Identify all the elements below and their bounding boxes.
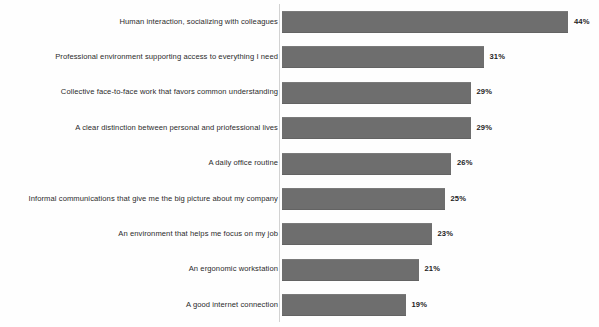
bar-value-label: 25% <box>451 194 467 203</box>
bar-value-label: 26% <box>457 158 473 167</box>
category-label: A good internet connection <box>186 300 278 309</box>
bar-value-label: 44% <box>574 17 590 26</box>
bar <box>282 259 419 281</box>
category-label: An environment that helps me focus on my… <box>118 229 278 238</box>
bar <box>282 11 568 33</box>
bar-row: Professional environment supporting acce… <box>0 46 599 66</box>
bar-row: An ergonomic workstation21% <box>0 259 599 279</box>
bar-value-label: 23% <box>438 229 454 238</box>
bar <box>282 294 406 316</box>
bar-chart: Human interaction, socializing with coll… <box>0 0 599 327</box>
bar-row: Collective face-to-face work that favors… <box>0 82 599 102</box>
bar-value-label: 31% <box>490 52 506 61</box>
category-label: Informal communications that give me the… <box>29 194 278 203</box>
bar-row: An environment that helps me focus on my… <box>0 223 599 243</box>
bar-row: Informal communications that give me the… <box>0 188 599 208</box>
category-label: Professional environment supporting acce… <box>55 52 278 61</box>
bar-value-label: 29% <box>477 123 493 132</box>
category-label: A daily office routine <box>208 158 278 167</box>
bar-value-label: 29% <box>477 87 493 96</box>
bar <box>282 82 471 104</box>
category-label: Collective face-to-face work that favors… <box>61 87 278 96</box>
bar <box>282 117 471 139</box>
bar-row: A clear distinction between personal and… <box>0 117 599 137</box>
chart-plot-area: Human interaction, socializing with coll… <box>0 0 599 327</box>
bar <box>282 153 451 175</box>
category-label: Human interaction, socializing with coll… <box>119 17 278 26</box>
bar <box>282 223 432 245</box>
category-label: An ergonomic workstation <box>189 264 278 273</box>
bar <box>282 46 484 68</box>
bar-value-label: 19% <box>412 300 428 309</box>
bar-row: Human interaction, socializing with coll… <box>0 11 599 31</box>
bar-row: A good internet connection19% <box>0 294 599 314</box>
bar-value-label: 21% <box>425 264 441 273</box>
bar <box>282 188 445 210</box>
category-label: A clear distinction between personal and… <box>75 123 278 132</box>
bar-row: A daily office routine26% <box>0 153 599 173</box>
